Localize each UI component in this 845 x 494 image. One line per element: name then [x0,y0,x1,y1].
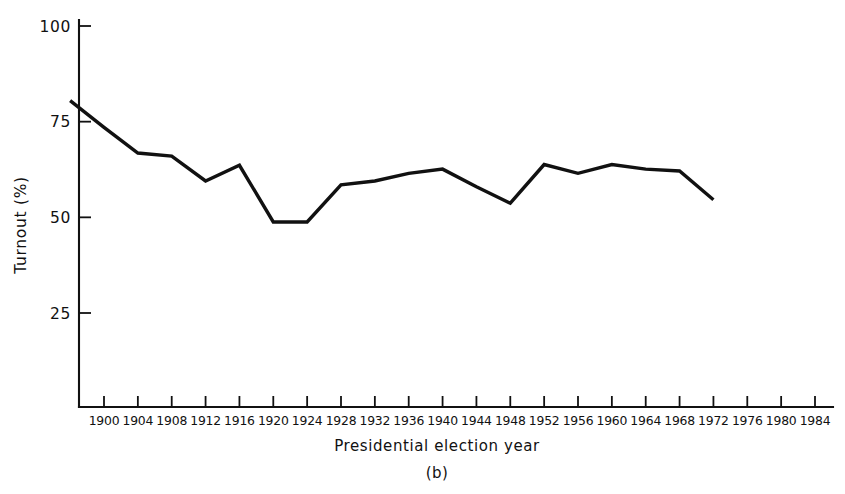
x-axis-tick-label: 1900 [89,413,120,428]
panel-caption: (b) [426,464,448,482]
x-axis-tick-label: 1928 [326,413,357,428]
x-axis-title: Presidential election year [334,437,540,455]
x-axis-tick-label: 1904 [122,413,153,428]
turnout-line-chart: 255075100 190019041908191219161920192419… [0,0,845,494]
y-axis-tick-label: 25 [50,305,71,323]
y-axis-tick-label: 75 [50,113,71,131]
figure-panel-b: 255075100 190019041908191219161920192419… [0,0,845,494]
x-axis-tick-label: 1972 [698,413,729,428]
x-axis-tick-label: 1936 [393,413,424,428]
chart-axes [79,20,833,407]
x-axis-tick-label: 1912 [190,413,221,428]
x-axis-tick-label: 1944 [461,413,492,428]
x-axis-tick-label: 1980 [766,413,797,428]
x-axis-tick-label: 1952 [529,413,560,428]
x-axis-tick-label: 1916 [224,413,255,428]
y-axis-ticks [79,26,91,313]
x-axis-tick-label: 1924 [292,413,323,428]
x-axis-tick-label: 1964 [630,413,661,428]
y-axis-tick-label: 100 [40,18,71,36]
x-axis-tick-label: 1956 [563,413,594,428]
x-axis-tick-label: 1940 [427,413,458,428]
x-axis-tick-label: 1948 [495,413,526,428]
x-axis-ticks [104,396,815,407]
x-axis-tick-label: 1960 [596,413,627,428]
x-axis-tick-labels: 1900190419081912191619201924192819321936… [89,413,831,428]
x-axis-tick-label: 1920 [258,413,289,428]
x-axis-tick-label: 1932 [359,413,390,428]
x-axis-tick-label: 1908 [156,413,187,428]
x-axis-tick-label: 1968 [664,413,695,428]
y-axis-title: Turnout (%) [12,176,30,275]
x-axis-tick-label: 1984 [800,413,831,428]
x-axis-tick-label: 1976 [732,413,763,428]
y-axis-tick-label: 50 [50,209,71,227]
turnout-series-line [70,101,713,222]
y-axis-tick-labels: 255075100 [40,18,71,323]
